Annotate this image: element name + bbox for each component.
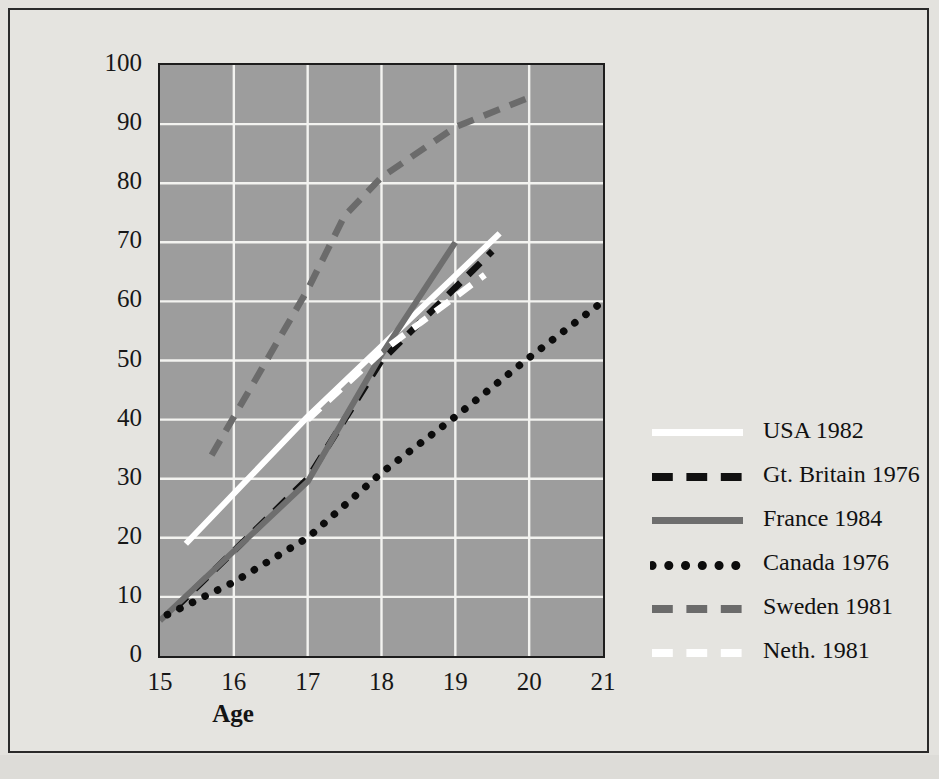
y-tick-label: 0 [80,640,142,668]
figure-frame: 0102030405060708090100 15161718192021 Pe… [8,8,929,753]
x-axis-label: Age [212,700,254,728]
y-tick-label: 100 [80,49,142,77]
series-line-2 [160,242,455,620]
legend-label: France 1984 [763,505,882,532]
y-tick-label: 90 [80,108,142,136]
legend-swatch-icon [650,515,745,522]
legend-label: USA 1982 [763,417,864,444]
legend-label: Sweden 1981 [763,593,893,620]
y-tick-label: 20 [80,522,142,550]
legend-swatch-icon [650,471,745,478]
legend-item-sweden-1981: Sweden 1981 [650,584,920,628]
plot-inner [160,65,603,656]
legend-item-canada-1976: Canada 1976 [650,540,920,584]
legend-item-gt-britain-1976: Gt. Britain 1976 [650,452,920,496]
legend-item-neth-1981: Neth. 1981 [650,628,920,672]
x-tick-label: 18 [352,668,412,696]
x-tick-label: 20 [499,668,559,696]
legend-swatch-icon [650,559,745,566]
figure-page: 0102030405060708090100 15161718192021 Pe… [0,0,939,779]
x-tick-label: 16 [204,668,264,696]
y-tick-label: 70 [80,226,142,254]
legend-swatch-icon [650,603,745,610]
page-bottom-strip [0,755,939,779]
legend-item-france-1984: France 1984 [650,496,920,540]
series-line-0 [186,233,500,543]
x-tick-label: 19 [425,668,485,696]
legend-label: Gt. Britain 1976 [763,461,920,488]
y-tick-label: 30 [80,463,142,491]
x-tick-label: 17 [278,668,338,696]
legend: USA 1982Gt. Britain 1976France 1984Canad… [650,408,920,672]
y-tick-label: 40 [80,404,142,432]
y-tick-label: 10 [80,581,142,609]
y-tick-label: 80 [80,167,142,195]
legend-swatch-icon [650,427,745,434]
plot-area [158,63,605,658]
legend-item-usa-1982: USA 1982 [650,408,920,452]
legend-label: Neth. 1981 [763,637,870,664]
y-tick-label: 50 [80,345,142,373]
x-tick-label: 15 [130,668,190,696]
legend-label: Canada 1976 [763,549,889,576]
legend-swatch-icon [650,647,745,654]
data-lines [160,65,603,656]
y-tick-label: 60 [80,285,142,313]
x-tick-label: 21 [573,668,633,696]
